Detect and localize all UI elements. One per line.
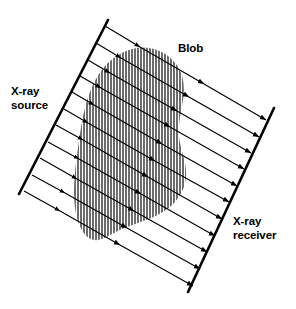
label-xray-source: X-raysource <box>11 85 48 112</box>
diagram-canvas: X-raysource X-rayreceiver Blob <box>0 0 296 309</box>
label-blob: Blob <box>178 42 203 56</box>
label-xray-receiver-line2: receiver <box>233 229 276 241</box>
label-xray-receiver-line1: X-ray <box>233 215 261 227</box>
label-xray-source-line2: source <box>11 99 48 111</box>
xray-blob-diagram-svg <box>0 0 296 309</box>
label-xray-source-line1: X-ray <box>11 85 39 97</box>
xray-receiver-line <box>188 108 274 292</box>
label-xray-receiver: X-rayreceiver <box>233 215 276 242</box>
